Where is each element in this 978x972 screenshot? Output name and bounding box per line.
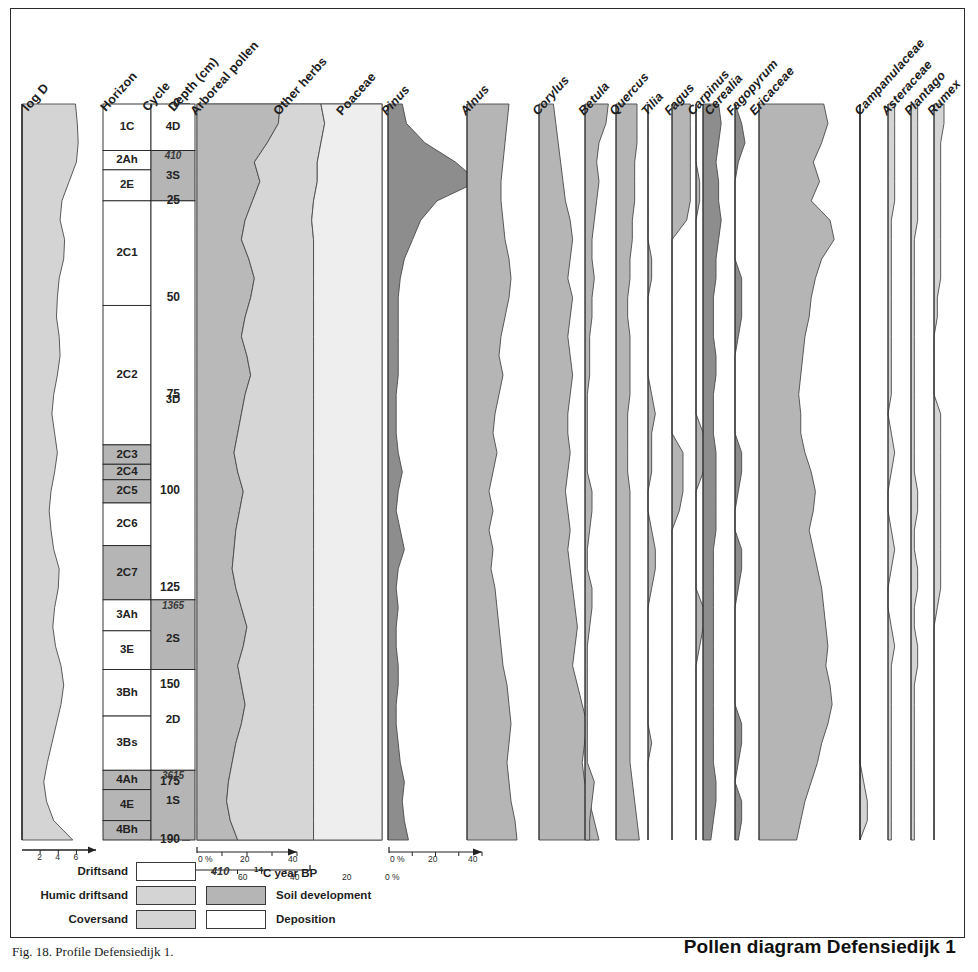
horizon-cell-label: 2C4 [103,465,151,477]
legend-right-label: Deposition [276,913,335,925]
legend-right-label: Soil development [276,889,371,901]
logd-tick-label: 2 [37,852,42,862]
horizon-cell-label: 3Bh [103,686,151,698]
legend-swatch-left [136,862,196,881]
legend-swatch-right [206,910,266,929]
horizon-cell-label: 4E [103,798,151,810]
legend-swatch-left [136,910,196,929]
cycle-cell-label: 3D [151,393,195,405]
horizon-cell-label: 2C6 [103,517,151,529]
horizon-cell-label: 2C3 [103,448,151,460]
legend-c14-value: 410 [211,865,229,877]
depth-tick-label: 0 [150,96,180,110]
depth-tick-label: 25 [150,193,180,207]
horizon-cell-label: 3E [103,643,151,655]
horizon-cell-label: 2C7 [103,566,151,578]
depth-tick-label: 150 [150,677,180,691]
horizon-cell-label: 4Ah [103,773,151,785]
depth-tick-label: 125 [150,580,180,594]
depth-tick-label: 100 [150,483,180,497]
logd-tick-label: 4 [55,852,60,862]
cycle-cell-label: 3S [151,169,195,181]
pct-label: 40 [468,854,477,864]
horizon-cell-label: 1C [103,120,151,132]
diagram-title: Pollen diagram Defensiedijk 1 [684,936,956,958]
cycle-cell-label: 4D [151,120,195,132]
legend-swatch-right [206,886,266,905]
cycle-cell-label: 2S [151,632,195,644]
horizon-cell-label: 2C1 [103,246,151,258]
logd-tick-label: 6 [73,852,78,862]
depth-tick-label: 50 [150,290,180,304]
c14-date-label: 1365 [151,600,195,611]
legend-left-label: Driftsand [26,865,128,877]
c14-date-label: 410 [151,150,195,161]
horizon-cell-label: 2Ah [103,153,151,165]
legend: DriftsandHumic driftsandSoil development… [26,862,446,930]
horizon-cell-label: 2E [103,178,151,190]
horizon-cell-label: 4Bh [103,823,151,835]
legend-left-label: Humic driftsand [26,889,128,901]
c14-date-label: 3615 [151,770,195,781]
cycle-cell-label: 2D [151,713,195,725]
figure-caption: Fig. 18. Profile Defensiedijk 1. [12,944,173,960]
horizon-cell-label: 3Ah [103,608,151,620]
horizon-cell-label: 3Bs [103,736,151,748]
legend-c14-label: 14C year BP [254,865,317,879]
horizon-cell-label: 2C2 [103,368,151,380]
legend-swatch-left [136,886,196,905]
depth-tick-label: 190 [150,832,180,846]
cycle-cell-label: 1S [151,794,195,806]
horizon-cell-label: 2C5 [103,484,151,496]
legend-left-label: Coversand [26,913,128,925]
